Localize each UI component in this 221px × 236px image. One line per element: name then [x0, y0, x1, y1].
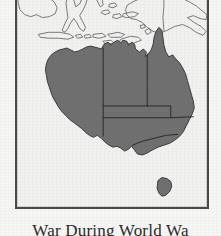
- figure-page: War During World Wa: [0, 0, 221, 236]
- map-figure-frame: [15, 0, 209, 209]
- australia-map: [17, 0, 207, 207]
- figure-caption-text: War During World Wa: [0, 222, 221, 236]
- figure-caption: War During World Wa: [0, 222, 221, 236]
